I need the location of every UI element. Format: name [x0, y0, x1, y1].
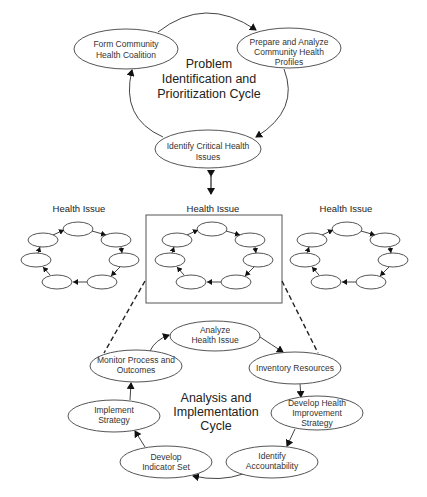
node-label: Improvement	[292, 408, 342, 418]
bottom-cycle-title: Implementation	[173, 405, 259, 419]
node-label: Health Issue	[191, 335, 239, 345]
node-label: Implement	[94, 405, 134, 415]
node-label: Issues	[196, 152, 221, 162]
node-label: Monitor Process and	[97, 355, 175, 365]
node-form-coalition: Form Community Health Coalition	[74, 29, 178, 69]
mini-cycle-center	[155, 222, 273, 289]
edge-analyze-to-inventory	[260, 337, 283, 352]
top-cycle-title: Identification and	[162, 72, 257, 86]
mini-cycle-right	[290, 222, 408, 289]
node-label: Analyze	[200, 325, 231, 335]
node-prepare-profiles: Prepare and Analyze Community Health Pro…	[237, 28, 341, 68]
health-issue-label-center: Health Issue	[187, 203, 240, 214]
mini-cycle-left	[21, 222, 139, 289]
edge-inventory-to-strategy	[300, 384, 301, 397]
node-accountability: Identify Accountability	[226, 446, 318, 478]
zoom-line-left	[104, 281, 145, 353]
analysis-implementation-cycle: Analyze Health Issue Inventory Resources…	[68, 321, 363, 479]
diagram-canvas: Form Community Health Coalition Prepare …	[0, 0, 427, 497]
node-label: Develop	[150, 452, 181, 462]
edge-monitor-to-analyze	[150, 335, 169, 351]
edge-coalition-to-profiles	[158, 13, 256, 32]
zoom-line-right	[282, 281, 318, 353]
node-implement: Implement Strategy	[68, 400, 160, 432]
node-indicator: Develop Indicator Set	[120, 446, 212, 478]
node-develop-strategy: Develop Health Improvement Strategy	[271, 396, 363, 430]
node-label: Identify	[258, 451, 286, 461]
node-monitor: Monitor Process and Outcomes	[90, 350, 182, 382]
node-label: Strategy	[301, 418, 333, 428]
node-label: Develop Health	[288, 398, 346, 408]
node-label: Inventory Resources	[256, 363, 334, 373]
problem-identification-cycle: Form Community Health Coalition Prepare …	[74, 13, 341, 168]
node-label: Health Coalition	[96, 50, 156, 60]
node-label: Prepare and Analyze	[250, 37, 329, 47]
bottom-cycle-title: Analysis and	[181, 391, 252, 405]
node-label: Community Health	[254, 47, 324, 57]
edge-strategy-to-accountability	[287, 429, 295, 446]
node-label: Indicator Set	[142, 462, 190, 472]
edge-accountability-to-indicator	[193, 474, 243, 479]
node-label: Identify Critical Health	[167, 141, 250, 151]
node-label: Accountability	[246, 461, 299, 471]
health-issue-label-right: Health Issue	[320, 203, 373, 214]
health-issue-label-left: Health Issue	[53, 203, 106, 214]
edge-issues-to-coalition	[129, 70, 163, 137]
node-label: Outcomes	[117, 365, 156, 375]
node-label: Profiles	[275, 57, 303, 67]
node-analyze: Analyze Health Issue	[170, 321, 260, 351]
edge-profiles-to-issues	[256, 69, 288, 137]
node-label: Strategy	[98, 415, 130, 425]
edge-implement-to-monitor	[130, 383, 131, 400]
top-cycle-title: Problem	[186, 57, 233, 71]
node-label: Form Community	[93, 39, 159, 49]
top-cycle-title: Prioritization Cycle	[157, 87, 261, 101]
node-inventory: Inventory Resources	[249, 352, 341, 384]
bottom-cycle-title: Cycle	[200, 419, 231, 433]
node-identify-issues: Identify Critical Health Issues	[155, 130, 261, 168]
edge-indicator-to-implement	[135, 431, 145, 447]
